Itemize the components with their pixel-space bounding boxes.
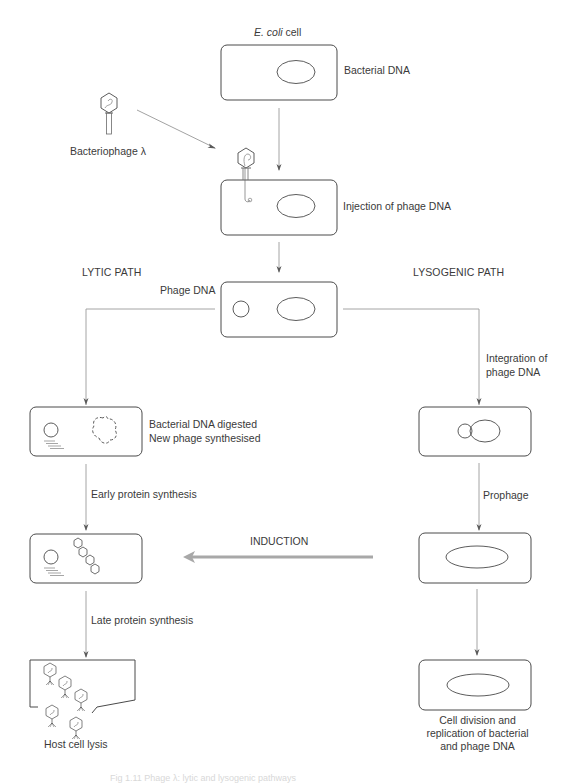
prophage-cell xyxy=(419,533,531,583)
lysogenic-branch-line xyxy=(343,309,479,405)
phage-dna-label: Phage DNA xyxy=(160,284,215,297)
lytic-branch-line xyxy=(86,309,215,405)
bacterial-dna-ellipse xyxy=(277,61,315,84)
early-protein-label: Early protein synthesis xyxy=(91,488,197,501)
phage-capsid-chain xyxy=(74,538,99,574)
digested-label-1: Bacterial DNA digested xyxy=(149,418,257,431)
phage-icon xyxy=(75,689,87,711)
phage-dna-circle xyxy=(233,301,249,317)
digested-cell xyxy=(30,407,142,456)
integration-label-1: Integration of xyxy=(486,352,547,365)
lytic-path-heading: LYTIC PATH xyxy=(82,266,141,279)
cell-division-label-3: and phage DNA xyxy=(419,740,536,753)
injection-label: Injection of phage DNA xyxy=(343,200,451,213)
lysed-cell xyxy=(30,660,135,713)
phage-icon xyxy=(44,663,56,685)
digested-dna-outline xyxy=(93,417,117,444)
induction-label: INDUCTION xyxy=(250,535,308,548)
arrow-phage-attach xyxy=(137,110,215,148)
prophage-label: Prophage xyxy=(483,489,529,502)
phage-icon xyxy=(70,717,82,739)
bacteriophage-label: Bacteriophage λ xyxy=(70,145,146,158)
digested-label-2: New phage synthesised xyxy=(149,432,261,445)
bacteriophage-icon xyxy=(101,93,117,134)
ecoli-cell-title: E. coli cell xyxy=(254,26,301,39)
figure-caption: Fig 1.11 Phage λ: lytic and lysogenic pa… xyxy=(110,773,296,783)
cell-division-label-2: replication of bacterial xyxy=(414,727,541,740)
injecting-phage-icon xyxy=(238,148,254,202)
phage-assembly-cell xyxy=(30,534,142,583)
ecoli-cell xyxy=(221,45,337,100)
phage-icon xyxy=(46,705,58,727)
integration-cell xyxy=(419,407,531,456)
late-protein-label: Late protein synthesis xyxy=(91,614,193,627)
phage-icon xyxy=(59,676,71,698)
integration-label-2: phage DNA xyxy=(486,366,540,379)
phage-dna-cell xyxy=(221,282,337,337)
dividing-cell xyxy=(419,660,531,710)
lysogenic-path-heading: LYSOGENIC PATH xyxy=(413,266,504,279)
bacterial-dna-label: Bacterial DNA xyxy=(344,64,410,77)
cell-division-label-1: Cell division and xyxy=(419,714,536,727)
host-lysis-label: Host cell lysis xyxy=(44,738,108,751)
released-phages xyxy=(44,663,87,739)
induction-arrow xyxy=(183,551,373,563)
